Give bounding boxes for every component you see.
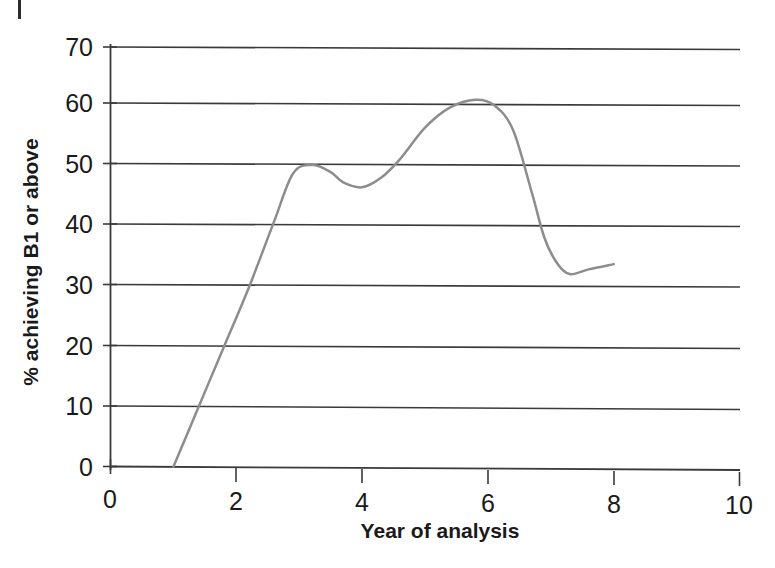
x-tick-label-0: 0	[103, 485, 117, 513]
y-tick-label-0: 0	[79, 453, 93, 481]
gridline-10	[110, 406, 740, 410]
x-axis-line	[110, 467, 740, 471]
x-tick-marks	[111, 459, 740, 486]
gridline-20	[110, 346, 740, 349]
y-tick-label-10: 10	[65, 392, 93, 420]
line-chart: 70 60 50 40 30 20 10 0 0 2 4 6 8 10 Year…	[0, 0, 775, 568]
gridline-60	[110, 103, 740, 106]
y-tick-label-70: 70	[65, 33, 93, 61]
y-tick-label-60: 60	[65, 89, 93, 117]
gridline-50	[110, 164, 740, 167]
y-tick-label-30: 30	[65, 271, 93, 299]
x-tick-labels: 0 2 4 6 8 10	[103, 485, 753, 519]
gridline-40	[110, 224, 740, 227]
y-tick-label-40: 40	[65, 210, 93, 238]
y-axis-title: % achieving B1 or above	[19, 138, 42, 385]
figure-canvas: 70 60 50 40 30 20 10 0 0 2 4 6 8 10 Year…	[0, 0, 775, 568]
x-tick-label-2: 2	[229, 487, 243, 515]
y-tick-label-50: 50	[65, 150, 93, 178]
gridline-30	[110, 285, 740, 288]
x-tick-label-10: 10	[725, 491, 753, 519]
y-tick-label-20: 20	[65, 332, 93, 360]
data-series-line	[173, 100, 613, 467]
x-tick-label-4: 4	[355, 488, 369, 516]
x-axis-title: Year of analysis	[361, 519, 520, 542]
x-tick-label-8: 8	[607, 490, 621, 518]
y-tick-labels: 70 60 50 40 30 20 10 0	[65, 33, 93, 481]
gridlines	[110, 47, 740, 410]
x-tick-label-6: 6	[481, 489, 495, 517]
gridline-70	[110, 47, 740, 50]
